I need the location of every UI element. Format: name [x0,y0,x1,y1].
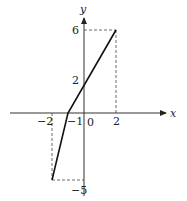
tick-label-y-neg5: −5 [71,184,87,197]
tick-label-y-2: 2 [72,74,79,87]
x-axis-label: x [170,107,177,120]
tick-label-x-neg2: −2 [37,115,53,128]
tick-label-y-6: 6 [72,24,79,37]
tick-label-x-neg1: −1 [67,115,83,128]
y-axis-label: y [79,3,87,16]
graph-canvas: y x 6 2 −5 −2 −1 0 2 [0,0,187,201]
origin-label: 0 [87,116,94,129]
tick-label-x-2: 2 [113,115,120,128]
